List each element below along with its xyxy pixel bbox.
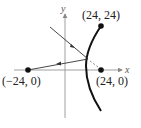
label-24-24: (24, 24)	[82, 8, 120, 22]
hyperbola-reflection-diagram: x y (24, 24) (−24, 0) (24, 0)	[0, 0, 141, 128]
incoming-ray	[50, 27, 88, 59]
label-neg24-0: (−24, 0)	[2, 74, 41, 88]
point-neg24-0	[25, 67, 31, 73]
point-24-24	[98, 23, 104, 29]
label-24-0: (24, 0)	[96, 74, 128, 88]
point-24-0	[98, 67, 104, 73]
focus-dashed-line	[90, 61, 98, 67]
y-axis-label: y	[60, 3, 66, 14]
